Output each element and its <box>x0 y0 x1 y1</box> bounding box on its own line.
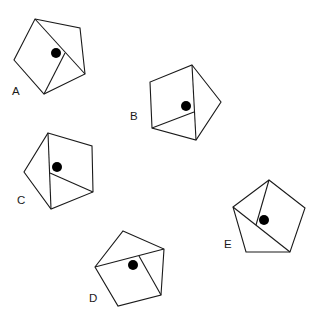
pentagon-e: E <box>224 180 305 252</box>
pentagon-b: B <box>130 65 221 140</box>
pentagon-d-dot <box>128 260 138 270</box>
pentagon-c-inner-line-2 <box>50 173 93 192</box>
pentagon-a-inner-line-2 <box>44 53 65 94</box>
pentagon-e-label: E <box>224 238 232 250</box>
pentagon-a: A <box>12 19 85 97</box>
pentagon-d-label: D <box>89 292 97 304</box>
pentagon-a-label: A <box>12 85 20 97</box>
pentagon-c: C <box>17 133 93 209</box>
pentagon-c-inner-line-1 <box>48 133 51 209</box>
pentagon-d: D <box>89 231 164 306</box>
pentagon-c-label: C <box>17 194 25 206</box>
pentagon-e-dot <box>259 215 269 225</box>
pentagon-c-dot <box>52 162 62 172</box>
pentagon-b-inner-line-1 <box>192 65 196 140</box>
pentagon-b-dot <box>181 101 191 111</box>
pentagon-d-inner-line-2 <box>139 256 161 295</box>
pentagon-a-dot <box>51 48 61 58</box>
pentagon-b-inner-line-2 <box>152 112 194 128</box>
pentagon-e-inner-line-1 <box>233 207 290 252</box>
pentagon-b-label: B <box>130 110 138 122</box>
pentagon-diagram: A B C D E <box>0 0 322 327</box>
